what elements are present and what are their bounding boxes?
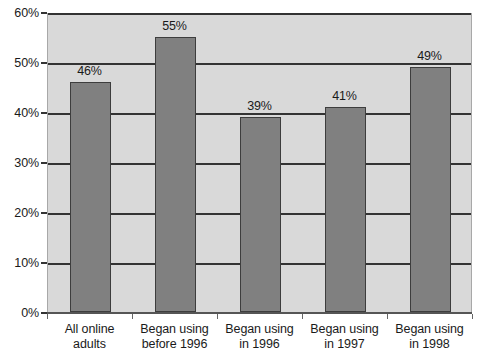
bar: [70, 82, 111, 312]
x-category-label-line: Began using: [302, 322, 387, 337]
y-tick-label: 40%: [0, 107, 39, 120]
x-tick-mark: [387, 314, 388, 319]
x-tick-mark: [472, 314, 473, 319]
x-category-label-line: Began using: [132, 322, 217, 337]
y-tick-label: 50%: [0, 57, 39, 70]
x-tick-mark: [302, 314, 303, 319]
x-category-label: Began usingin 1996: [217, 322, 302, 352]
x-category-label: Began usingin 1997: [302, 322, 387, 352]
x-category-label-line: before 1996: [132, 337, 217, 352]
y-tick-label: 60%: [0, 7, 39, 20]
y-tick-mark: [41, 212, 47, 214]
y-tick-mark: [41, 262, 47, 264]
gridline: [48, 113, 471, 115]
bar: [410, 67, 451, 312]
y-tick-mark: [41, 12, 47, 14]
bar-value-label: 55%: [145, 20, 205, 33]
x-axis-line: [47, 312, 472, 314]
x-category-label-line: Began using: [387, 322, 472, 337]
x-category-label: Began usingin 1998: [387, 322, 472, 352]
y-tick-label: 10%: [0, 257, 39, 270]
x-tick-mark: [47, 314, 48, 319]
bar: [240, 117, 281, 312]
x-category-label-line: Began using: [217, 322, 302, 337]
bar: [325, 107, 366, 312]
x-tick-mark: [132, 314, 133, 319]
y-tick-mark: [41, 62, 47, 64]
x-category-label-line: in 1998: [387, 337, 472, 352]
y-tick-mark: [41, 112, 47, 114]
y-tick-label: 20%: [0, 207, 39, 220]
x-category-label-line: in 1997: [302, 337, 387, 352]
x-category-label-line: All online: [47, 322, 132, 337]
x-tick-mark: [217, 314, 218, 319]
y-tick-mark: [41, 162, 47, 164]
bar-value-label: 41%: [315, 90, 375, 103]
gridline: [48, 13, 471, 15]
x-category-label-line: adults: [47, 337, 132, 352]
x-category-label-line: in 1996: [217, 337, 302, 352]
x-category-label: All onlineadults: [47, 322, 132, 352]
y-tick-label: 0%: [0, 307, 39, 320]
x-category-label: Began usingbefore 1996: [132, 322, 217, 352]
y-tick-label: 30%: [0, 157, 39, 170]
bar-chart: 0%10%20%30%40%50%60% All onlineadultsBeg…: [0, 0, 486, 359]
bar-value-label: 39%: [230, 100, 290, 113]
bar-value-label: 49%: [400, 50, 460, 63]
bar-value-label: 46%: [60, 65, 120, 78]
bar: [155, 37, 196, 312]
